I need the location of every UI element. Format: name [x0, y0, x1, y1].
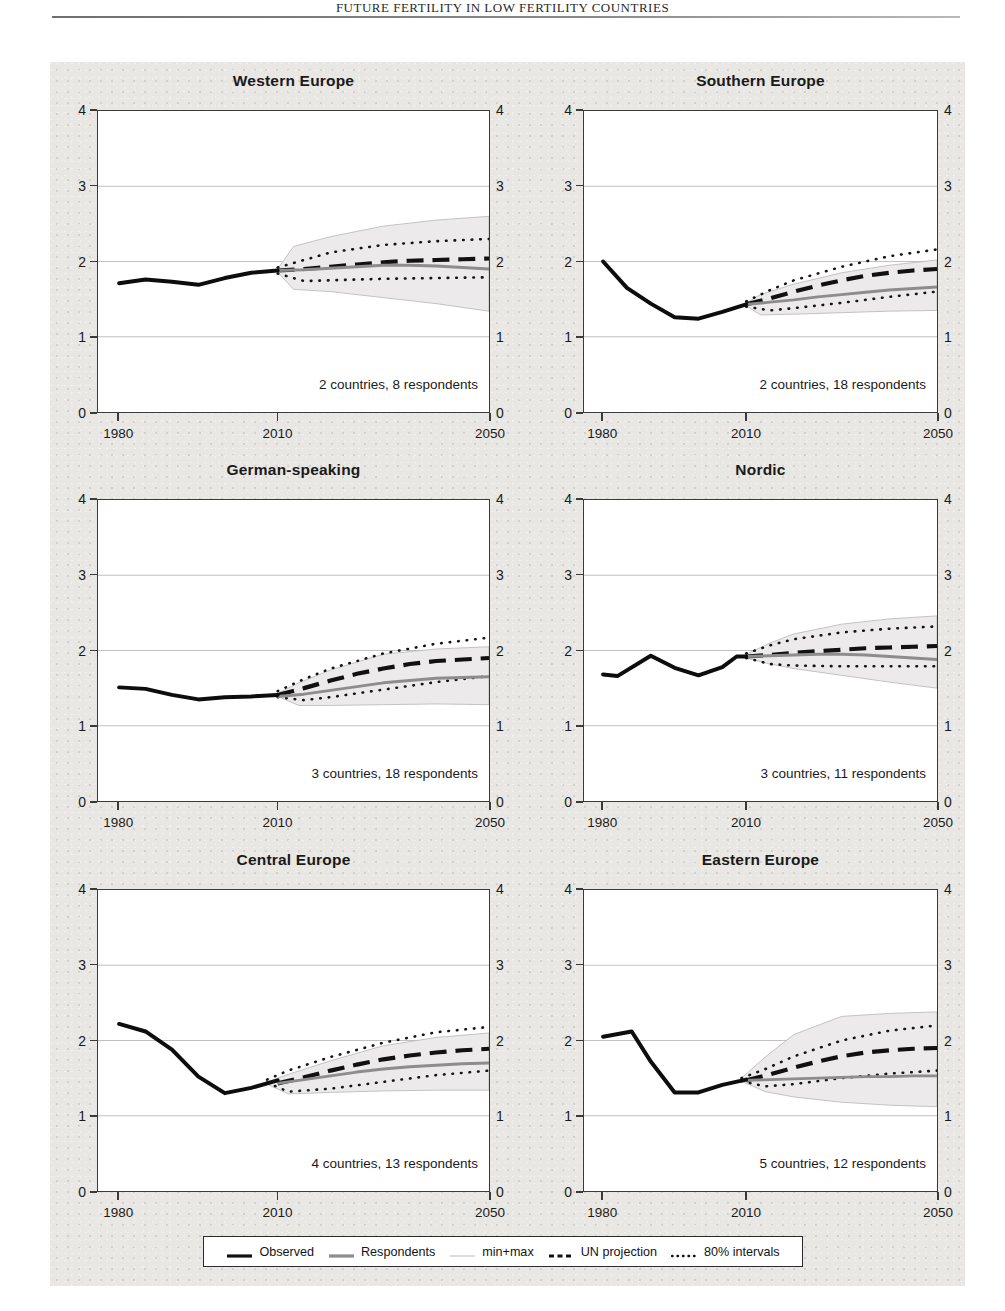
- legend-item-observed: Observed: [226, 1245, 314, 1259]
- y-tick-label-left: 2: [550, 1033, 572, 1049]
- plot-svg: [584, 890, 937, 1191]
- y-tick-label-right: 0: [944, 1184, 966, 1200]
- legend-key-solid-thick-gray-icon: [328, 1247, 355, 1257]
- legend-key-dashed-black-icon: [548, 1247, 575, 1257]
- plot-area: [583, 889, 938, 1192]
- legend-key-solid-thin-gray-icon: [449, 1247, 476, 1257]
- x-tick-mark: [937, 1192, 939, 1200]
- y-tick-label-left: 4: [550, 881, 572, 897]
- panel-annotation: 5 countries, 12 respondents: [583, 1156, 926, 1171]
- panel-title: Eastern Europe: [583, 851, 938, 869]
- legend-item-80-intervals: 80% intervals: [671, 1245, 780, 1259]
- legend-key-dotted-black-icon: [671, 1247, 698, 1257]
- y-tick-mark: [576, 964, 583, 966]
- y-tick-mark: [576, 888, 583, 890]
- y-tick-label-right: 1: [944, 1108, 966, 1124]
- legend-label: Respondents: [361, 1245, 435, 1259]
- y-tick-label-left: 0: [550, 1184, 572, 1200]
- y-tick-mark: [576, 1115, 583, 1117]
- y-tick-label-left: 1: [550, 1108, 572, 1124]
- legend-item-respondents: Respondents: [328, 1245, 435, 1259]
- minmax-band: [741, 1012, 937, 1107]
- y-tick-label-right: 2: [944, 1033, 966, 1049]
- legend-label: 80% intervals: [704, 1245, 780, 1259]
- x-tick-label: 1980: [587, 1205, 617, 1220]
- legend-item-min-max: min+max: [449, 1245, 533, 1259]
- figure-page: FUTURE FERTILITY IN LOW FERTILITY COUNTR…: [0, 0, 1005, 1311]
- legend-label: Observed: [259, 1245, 314, 1259]
- y-tick-label-right: 3: [944, 957, 966, 973]
- legend-label: min+max: [482, 1245, 533, 1259]
- y-tick-mark: [576, 1191, 583, 1193]
- chart-legend: ObservedRespondentsmin+maxUN projection8…: [203, 1236, 803, 1267]
- x-tick-label: 2010: [731, 1205, 761, 1220]
- legend-label: UN projection: [581, 1245, 657, 1259]
- y-tick-mark: [576, 1040, 583, 1042]
- x-tick-mark: [745, 1192, 747, 1200]
- x-tick-mark: [601, 1192, 603, 1200]
- y-tick-label-left: 3: [550, 957, 572, 973]
- y-tick-label-right: 4: [944, 881, 966, 897]
- legend-key-solid-thick-black-icon: [226, 1247, 253, 1257]
- x-tick-label: 2050: [923, 1205, 953, 1220]
- chart-panel-6: Eastern Europe5 countries, 12 respondent…: [0, 0, 1005, 1311]
- legend-item-un-projection: UN projection: [548, 1245, 657, 1259]
